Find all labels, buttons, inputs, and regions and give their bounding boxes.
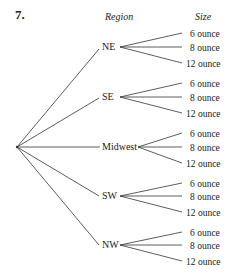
header-size: Size bbox=[195, 12, 211, 22]
region-midwest: Midwest bbox=[102, 142, 137, 152]
size-nw-8: 8 ounce bbox=[190, 241, 220, 251]
size-sw-8: 8 ounce bbox=[190, 192, 220, 202]
size-ne-6: 6 ounce bbox=[190, 29, 220, 39]
size-se-8: 8 ounce bbox=[190, 93, 220, 103]
region-sw: SW bbox=[102, 191, 117, 201]
branch-root-se bbox=[17, 98, 99, 147]
size-se-12: 12 ounce bbox=[186, 109, 221, 119]
region-nw: NW bbox=[102, 240, 119, 250]
size-sw-12: 12 ounce bbox=[186, 208, 221, 218]
size-midwest-6: 6 ounce bbox=[190, 129, 220, 139]
tree-diagram-lines bbox=[0, 0, 232, 280]
size-sw-6: 6 ounce bbox=[190, 179, 220, 189]
branch-root-nw bbox=[17, 147, 99, 245]
size-nw-6: 6 ounce bbox=[190, 228, 220, 238]
size-ne-8: 8 ounce bbox=[190, 43, 220, 53]
region-ne: NE bbox=[102, 42, 115, 52]
branch-root-sw bbox=[17, 147, 99, 196]
size-midwest-12: 12 ounce bbox=[186, 159, 221, 169]
problem-number: 7. bbox=[15, 10, 25, 20]
size-midwest-8: 8 ounce bbox=[190, 143, 220, 153]
size-ne-12: 12 ounce bbox=[186, 59, 221, 69]
size-se-6: 6 ounce bbox=[190, 79, 220, 89]
header-region: Region bbox=[105, 12, 133, 22]
root-node bbox=[16, 146, 18, 148]
branch-root-ne bbox=[17, 49, 99, 147]
size-nw-12: 12 ounce bbox=[186, 257, 221, 267]
region-se: SE bbox=[102, 92, 114, 102]
